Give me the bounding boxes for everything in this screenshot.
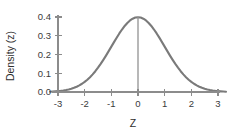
y-tick-label: 0.2 (38, 49, 51, 60)
x-axis-title: Z (130, 117, 137, 129)
x-tick-label: 0 (135, 98, 140, 109)
y-axis-title: Density (z) (4, 31, 16, 81)
y-axis-tick-labels: 0.00.10.20.30.4 (38, 11, 51, 97)
y-tick-label: 0.4 (38, 11, 51, 22)
chart-canvas: -3-2-10123 0.00.10.20.30.4 Z Density (z) (0, 0, 228, 130)
x-tick-label: -3 (54, 98, 62, 109)
x-tick-label: -1 (107, 98, 115, 109)
x-tick-label: 1 (162, 98, 167, 109)
y-tick-label: 0.3 (38, 30, 51, 41)
plot-area: -3-2-10123 0.00.10.20.30.4 (38, 11, 226, 109)
y-tick-label: 0.0 (38, 86, 51, 97)
y-tick-label: 0.1 (38, 68, 51, 79)
x-tick-label: -2 (80, 98, 88, 109)
density-chart: -3-2-10123 0.00.10.20.30.4 Z Density (z) (0, 0, 228, 130)
x-axis-tick-labels: -3-2-10123 (54, 98, 221, 109)
x-tick-label: 2 (189, 98, 194, 109)
x-tick-label: 3 (215, 98, 220, 109)
